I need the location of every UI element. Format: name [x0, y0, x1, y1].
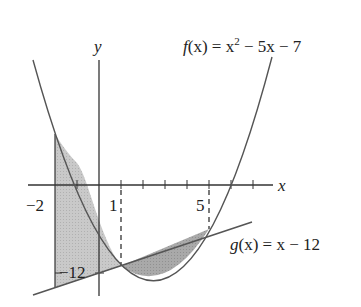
g-label: g(x) = x − 12 [230, 235, 320, 254]
tick-label-neg12: −12 [59, 263, 86, 282]
area-between-curves-figure: y x −2 1 5 −12 f(x) = x2 − 5x − 7 g(x) =… [0, 0, 361, 307]
tick-label-5: 5 [196, 196, 205, 215]
tick-label-1: 1 [109, 196, 118, 215]
y-axis-label: y [92, 37, 102, 56]
x-axis-label: x [277, 176, 286, 195]
tick-label-neg2: −2 [26, 196, 44, 215]
f-label: f(x) = x2 − 5x − 7 [183, 35, 302, 56]
